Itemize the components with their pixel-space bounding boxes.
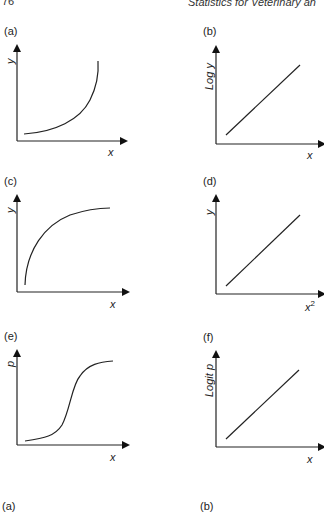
panel-label-a: (a) xyxy=(4,25,17,37)
xlabel-d: x2 xyxy=(305,299,315,313)
next-figure-label-a: (a) xyxy=(2,500,15,512)
panel-c-axes xyxy=(17,196,128,292)
ylabel-e: p xyxy=(4,361,16,367)
panel-c-curve xyxy=(25,208,110,285)
panel-label-b: (b) xyxy=(203,25,216,37)
xlabel-e: x xyxy=(110,451,116,463)
next-figure-label-b: (b) xyxy=(200,500,213,512)
ylabel-b: Log y xyxy=(203,63,215,90)
xlabel-f: x xyxy=(307,453,313,465)
figure-plots xyxy=(0,0,324,516)
panel-label-c: (c) xyxy=(4,175,17,187)
ylabel-f: Logit p xyxy=(203,364,215,397)
panel-label-f: (f) xyxy=(203,331,213,343)
panel-f-line xyxy=(226,370,299,439)
xlabel-c: x xyxy=(110,298,116,310)
panel-label-d: (d) xyxy=(203,175,216,187)
xlabel-d-superscript: 2 xyxy=(311,299,315,308)
ylabel-a: y xyxy=(4,59,16,65)
panel-e-axes xyxy=(17,351,128,445)
panel-a-curve xyxy=(24,61,98,134)
panel-b-line xyxy=(226,65,300,135)
panel-e-curve xyxy=(25,361,113,441)
panel-d-line xyxy=(226,215,300,286)
xlabel-b: x xyxy=(307,149,313,161)
xlabel-a: x xyxy=(108,146,114,158)
panel-a-axes xyxy=(17,46,126,141)
panel-label-e: (e) xyxy=(4,330,17,342)
ylabel-c: y xyxy=(4,208,16,214)
ylabel-d: y xyxy=(203,210,215,216)
